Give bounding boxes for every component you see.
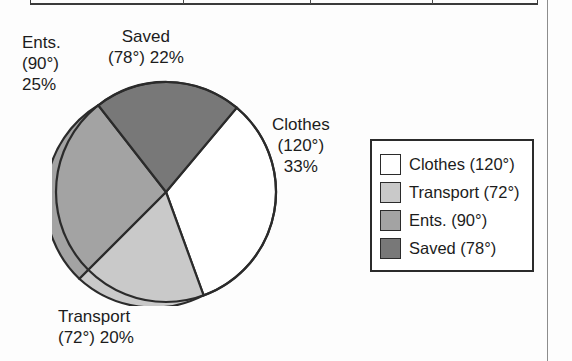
legend-label-clothes: Clothes (120°) <box>409 155 515 173</box>
pie-chart-svg <box>52 78 280 306</box>
legend-item-ents[interactable]: Ents. (90°) <box>380 206 532 234</box>
pie-label-ents: Ents. (90°) 25% <box>22 32 61 95</box>
pie-label-saved-line1: Saved <box>108 26 184 47</box>
legend-swatch-saved <box>380 238 401 259</box>
pie-chart: Ents. (90°) 25% Saved (78°) 22% Clothes … <box>0 0 380 361</box>
legend-item-clothes[interactable]: Clothes (120°) <box>380 150 532 178</box>
chart-legend: Clothes (120°) Transport (72°) Ents. (90… <box>370 139 534 272</box>
pie-label-transport-line2: (72°) 20% <box>58 327 134 348</box>
legend-swatch-clothes <box>380 154 401 175</box>
pie-label-clothes: Clothes (120°) 33% <box>272 114 330 177</box>
pie-label-ents-line2: (90°) <box>22 53 61 74</box>
legend-item-saved[interactable]: Saved (78°) <box>380 234 532 262</box>
page-margin-rule <box>547 0 548 361</box>
legend-item-transport[interactable]: Transport (72°) <box>380 178 532 206</box>
legend-label-saved: Saved (78°) <box>409 239 496 257</box>
pie-label-saved: Saved (78°) 22% <box>108 26 184 68</box>
pie-label-clothes-line2: (120°) <box>272 135 330 156</box>
pie-label-ents-line3: 25% <box>22 74 61 95</box>
pie-label-clothes-line3: 33% <box>272 156 330 177</box>
pie-label-ents-line1: Ents. <box>22 32 61 53</box>
pie-label-clothes-line1: Clothes <box>272 114 330 135</box>
pie-label-transport: Transport (72°) 20% <box>58 306 134 348</box>
legend-label-ents: Ents. (90°) <box>409 211 487 229</box>
pie-label-transport-line1: Transport <box>58 306 134 327</box>
legend-label-transport: Transport (72°) <box>409 183 520 201</box>
legend-swatch-ents <box>380 210 401 231</box>
pie-label-saved-line2: (78°) 22% <box>108 47 184 68</box>
legend-swatch-transport <box>380 182 401 203</box>
table-column-divider-3 <box>432 0 433 4</box>
